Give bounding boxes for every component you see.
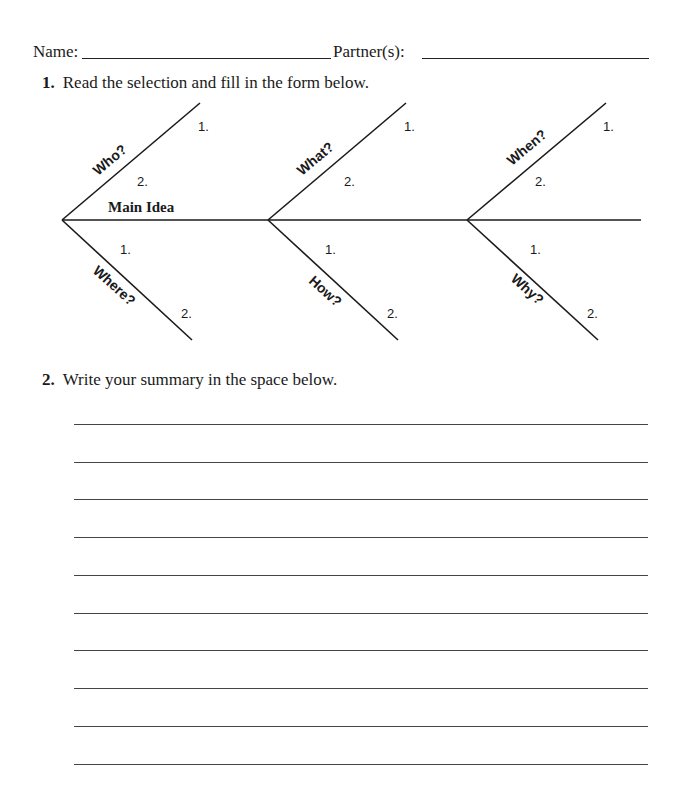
summary-line[interactable] (74, 424, 648, 425)
branch-when (467, 103, 606, 220)
label-what: What? (294, 139, 337, 179)
summary-line[interactable] (74, 537, 648, 538)
why-1: 1. (530, 242, 541, 257)
question-2-text: Write your summary in the space below. (63, 370, 337, 389)
branch-why (467, 220, 598, 340)
summary-line[interactable] (74, 499, 648, 500)
summary-line[interactable] (74, 575, 648, 576)
label-when: When? (504, 126, 550, 168)
question-2: 2.Write your summary in the space below. (42, 370, 337, 390)
branch-what (268, 103, 406, 220)
branch-where (62, 220, 192, 340)
what-1: 1. (404, 119, 415, 134)
who-what-area[interactable] (70, 100, 260, 215)
summary-line[interactable] (74, 650, 648, 651)
how-2: 2. (387, 306, 398, 321)
when-2: 2. (535, 174, 546, 189)
where-2: 2. (181, 306, 192, 321)
summary-line[interactable] (74, 688, 648, 689)
where-1: 1. (120, 242, 131, 257)
branch-how (268, 220, 398, 340)
summary-line[interactable] (74, 764, 648, 765)
summary-line[interactable] (74, 726, 648, 727)
summary-line[interactable] (74, 462, 648, 463)
why-2: 2. (587, 306, 598, 321)
question-2-number: 2. (42, 370, 55, 389)
what-2: 2. (344, 174, 355, 189)
summary-line[interactable] (74, 613, 648, 614)
label-how: How? (306, 272, 345, 309)
fishbone-diagram: Main Idea Who? Where? What? How? When? W… (0, 0, 681, 360)
when-1: 1. (603, 119, 614, 134)
how-1: 1. (325, 242, 336, 257)
